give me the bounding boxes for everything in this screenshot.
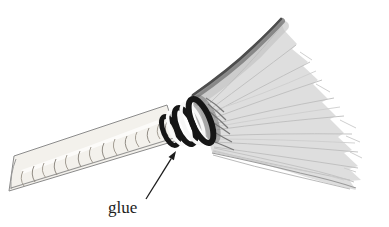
glue-annotation: glue [108, 151, 176, 217]
glue-label: glue [108, 198, 137, 217]
broom-glue-illustration: glue [0, 0, 389, 227]
broom-head [193, 19, 362, 190]
glue-arrow-line [146, 159, 171, 199]
broom-drawing: glue [0, 0, 389, 227]
glue-arrowhead [169, 151, 177, 160]
broom-handle [9, 105, 178, 191]
